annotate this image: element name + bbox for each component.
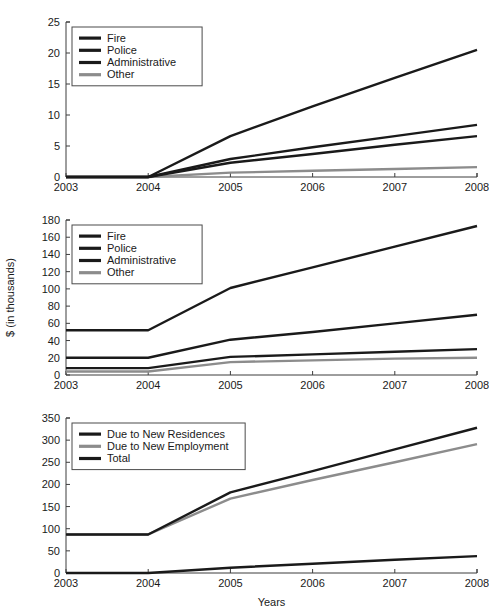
chart-svg-2: 0204060801001201401601802003200420052006… [0, 198, 489, 396]
x-tick-label: 2006 [300, 577, 324, 589]
chart-panel-3: 0501001502002503003502003200420052006200… [0, 396, 489, 611]
x-tick-label: 2004 [136, 379, 160, 391]
y-tick-label: 20 [48, 352, 60, 364]
legend-label-fire: Fire [107, 32, 126, 44]
y-tick-label: 60 [48, 317, 60, 329]
y-tick-label: 10 [48, 109, 60, 121]
x-tick-label: 2006 [300, 379, 324, 391]
legend-label-police: Police [107, 44, 137, 56]
y-tick-label: 150 [42, 501, 60, 513]
legend-label-due-to-new-employment: Due to New Employment [107, 440, 229, 452]
y-tick-label: 250 [42, 456, 60, 468]
y-tick-label: 20 [48, 47, 60, 59]
y-tick-label: 40 [48, 335, 60, 347]
legend-2: FirePoliceAdministrativeOther [72, 225, 202, 284]
x-tick-label: 2004 [136, 181, 160, 193]
y-tick-label: 25 [48, 16, 60, 28]
chart-svg-1: 0510152025200320042005200620072008FirePo… [0, 0, 489, 198]
y-tick-label: 180 [42, 214, 60, 226]
series-line-due-to-new-residences [66, 556, 477, 573]
x-tick-label: 2005 [218, 181, 242, 193]
legend-1: FirePoliceAdministrativeOther [72, 27, 202, 86]
legend-label-police: Police [107, 242, 137, 254]
figure-canvas: 0510152025200320042005200620072008FirePo… [0, 0, 489, 611]
x-tick-label: 2004 [136, 577, 160, 589]
x-tick-label: 2008 [465, 379, 489, 391]
x-tick-label: 2006 [300, 181, 324, 193]
chart-panel-1: 0510152025200320042005200620072008FirePo… [0, 0, 489, 198]
x-axis-title: Years [258, 596, 286, 608]
x-tick-label: 2003 [54, 379, 78, 391]
legend-label-other: Other [107, 266, 135, 278]
y-tick-label: 100 [42, 523, 60, 535]
chart-panel-2: 0204060801001201401601802003200420052006… [0, 198, 489, 396]
chart-svg-3: 0501001502002503003502003200420052006200… [0, 396, 489, 611]
y-tick-label: 120 [42, 266, 60, 278]
y-tick-label: 200 [42, 478, 60, 490]
legend-label-other: Other [107, 68, 135, 80]
legend-label-total: Total [107, 452, 130, 464]
y-tick-label: 300 [42, 434, 60, 446]
y-tick-label: 5 [54, 140, 60, 152]
series-line-other [66, 358, 477, 372]
legend-label-fire: Fire [107, 230, 126, 242]
legend-label-due-to-new-residences: Due to New Residences [107, 428, 226, 440]
x-tick-label: 2003 [54, 577, 78, 589]
y-tick-label: 350 [42, 412, 60, 424]
y-tick-label: 100 [42, 283, 60, 295]
series-line-other [66, 167, 477, 177]
x-tick-label: 2007 [383, 577, 407, 589]
legend-label-administrative: Administrative [107, 254, 176, 266]
x-tick-label: 2007 [383, 379, 407, 391]
y-tick-label: 15 [48, 78, 60, 90]
legend-label-administrative: Administrative [107, 56, 176, 68]
x-tick-label: 2005 [218, 379, 242, 391]
x-tick-label: 2008 [465, 181, 489, 193]
y-tick-label: 160 [42, 231, 60, 243]
y-tick-label: 50 [48, 545, 60, 557]
x-tick-label: 2005 [218, 577, 242, 589]
y-axis-title: $ (in thousands) [4, 258, 16, 337]
x-tick-label: 2007 [383, 181, 407, 193]
legend-3: Due to New ResidencesDue to New Employme… [72, 423, 245, 470]
y-tick-label: 80 [48, 300, 60, 312]
y-tick-label: 140 [42, 248, 60, 260]
x-tick-label: 2008 [465, 577, 489, 589]
x-tick-label: 2003 [54, 181, 78, 193]
